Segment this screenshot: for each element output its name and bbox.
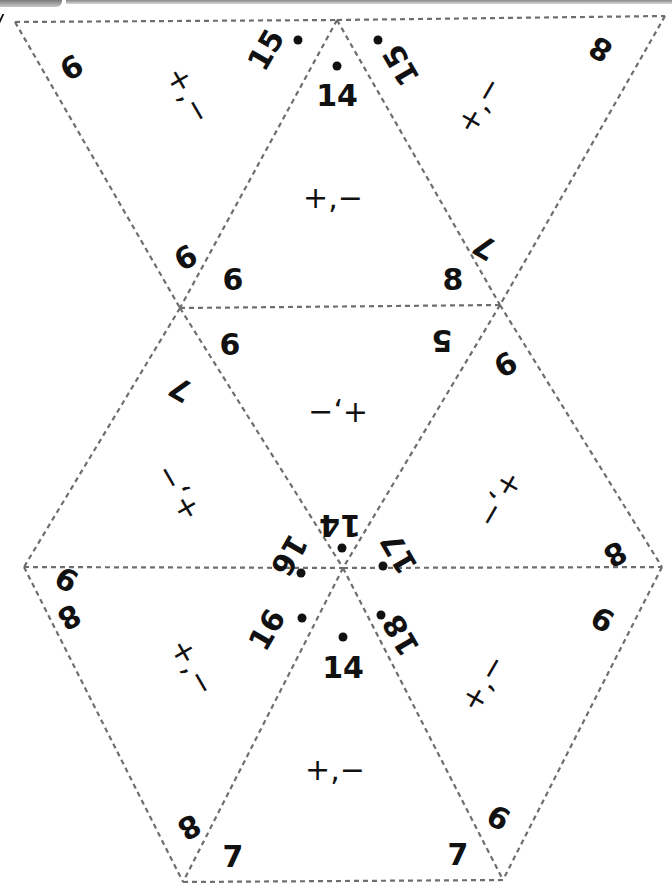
t8-edge-bottom-right: 7: [448, 837, 469, 872]
triangle-4[interactable]: 7 9 16 +,−: [49, 369, 315, 600]
t8-dot: [339, 633, 348, 642]
t3-edge-top-left: 15: [375, 38, 426, 92]
t1-edge-bottom: 9: [167, 237, 203, 278]
t1-edge-left: 9: [53, 47, 89, 88]
t9-edge-bottom: 9: [481, 797, 517, 838]
triangle-9[interactable]: 18 9 9 +,−: [375, 599, 620, 838]
t9-operation: +,−: [453, 648, 513, 717]
t1-dot: [294, 36, 303, 45]
t4-dot: [297, 569, 306, 578]
triangle-6[interactable]: 9 17 8 +,−: [373, 344, 633, 580]
t4-operation: +,−: [147, 459, 207, 528]
t7-edge-bottom: 8: [171, 807, 207, 848]
t2-operation: +,−: [303, 180, 363, 215]
t1-edge-top-right: 15: [240, 23, 291, 77]
t2-edge-bottom-right: 8: [443, 262, 464, 297]
t7-operation: +,−: [163, 632, 223, 701]
t7-dot: [298, 614, 307, 623]
tarsia-puzzle: 9 15 9 +,− 14 6 8 +,− 15 8 7 +,− 7 9 16 …: [0, 0, 672, 887]
t3-edge-bottom: 7: [467, 227, 503, 268]
triangle-7[interactable]: 8 16 8 +,−: [51, 597, 306, 848]
t6-dot: [379, 562, 388, 571]
t9-edge-right: 9: [585, 599, 621, 640]
t7-edge-top-right: 16: [241, 603, 292, 657]
t6-edge-bottom-left: 17: [373, 526, 424, 580]
t6-edge-top: 9: [487, 344, 523, 385]
t5-edge-bottom: 14: [319, 508, 361, 543]
triangle-8[interactable]: 14 7 7 +,−: [223, 633, 469, 875]
t3-edge-right: 8: [583, 29, 619, 70]
t3-dot: [374, 36, 383, 45]
t1-operation: +,−: [159, 60, 219, 129]
t4-edge-bottom-left: 9: [49, 559, 85, 600]
t6-edge-bottom-right: 8: [597, 534, 633, 575]
t5-operation: +,−: [308, 396, 368, 431]
t5-edge-top-right: 5: [432, 323, 453, 358]
t2-edge-bottom-left: 6: [223, 262, 244, 297]
t5-edge-top-left: 6: [220, 327, 241, 362]
t6-operation: +,−: [471, 466, 531, 535]
t5-dot: [338, 544, 347, 553]
t8-operation: +,−: [305, 752, 365, 787]
t8-edge-bottom-left: 7: [223, 839, 244, 874]
t4-edge-bottom-right: 16: [264, 528, 315, 582]
t2-dot: [333, 62, 342, 71]
triangle-5[interactable]: 6 5 14 +,−: [220, 323, 453, 553]
t9-dot: [377, 611, 386, 620]
t2-edge-top: 14: [316, 78, 358, 113]
t3-operation: +,−: [449, 70, 509, 139]
t4-edge-top: 7: [163, 369, 199, 410]
t8-edge-top: 14: [322, 650, 364, 685]
